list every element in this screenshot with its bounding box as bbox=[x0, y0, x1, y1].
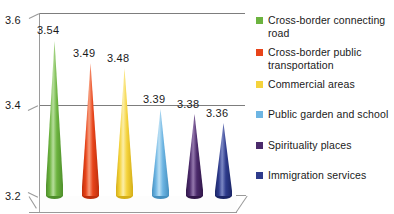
cone-value-label: 3.48 bbox=[107, 52, 129, 64]
cone-body bbox=[215, 123, 232, 196]
cone-body bbox=[46, 40, 63, 196]
chart-legend: Cross-border connecting road Cross-borde… bbox=[252, 0, 394, 214]
chart-floor-right-edge bbox=[236, 196, 250, 213]
legend-swatch-icon bbox=[256, 142, 263, 149]
cone-value-label: 3.36 bbox=[206, 107, 228, 119]
cone-bar[interactable] bbox=[82, 63, 99, 196]
legend-swatch-icon bbox=[256, 17, 263, 24]
legend-item-commercial-areas[interactable]: Commercial areas bbox=[256, 78, 394, 91]
legend-item-public-garden-and-school[interactable]: Public garden and school bbox=[256, 108, 394, 121]
y-axis-tick-3-6: 3.6 bbox=[5, 14, 21, 26]
cone-body bbox=[186, 114, 203, 196]
chart-floor-left-edge bbox=[29, 196, 40, 213]
cone-bar[interactable] bbox=[215, 123, 232, 196]
cone-bar[interactable] bbox=[152, 109, 169, 196]
cone-value-label: 3.54 bbox=[37, 24, 59, 36]
legend-item-label: Immigration services bbox=[268, 169, 366, 182]
plot-area: 3.6 3.4 3.2 3.543.493.483.393.383.36 bbox=[0, 0, 250, 214]
axis-tick-skew-middle bbox=[28, 105, 38, 111]
legend-swatch-icon bbox=[256, 172, 263, 179]
cone-value-label: 3.49 bbox=[73, 47, 95, 59]
chart-floor bbox=[39, 196, 237, 213]
cone-value-label: 3.38 bbox=[177, 98, 199, 110]
legend-item-spirituality-places[interactable]: Spirituality places bbox=[256, 139, 394, 152]
gridline-top bbox=[40, 13, 245, 14]
legend-item-cross-border-public-transportation[interactable]: Cross-border public transportation bbox=[256, 46, 394, 71]
cone-body bbox=[82, 63, 99, 196]
legend-item-immigration-services[interactable]: Immigration services bbox=[256, 169, 394, 182]
legend-item-label: Commercial areas bbox=[268, 78, 355, 91]
cone-bar[interactable] bbox=[46, 40, 63, 196]
legend-item-label: Cross-border public transportation bbox=[268, 46, 394, 71]
cone-body bbox=[116, 68, 133, 196]
y-axis-tick-3-4: 3.4 bbox=[5, 99, 21, 111]
cone-bar[interactable] bbox=[116, 68, 133, 196]
legend-item-label: Cross-border connecting road bbox=[268, 14, 394, 39]
legend-swatch-icon bbox=[256, 111, 263, 118]
cone-body bbox=[152, 109, 169, 196]
cone-bar[interactable] bbox=[186, 114, 203, 196]
y-axis-line bbox=[39, 13, 40, 197]
legend-item-cross-border-connecting-road[interactable]: Cross-border connecting road bbox=[256, 14, 394, 39]
cone-value-label: 3.39 bbox=[143, 93, 165, 105]
legend-item-label: Spirituality places bbox=[268, 139, 352, 152]
legend-swatch-icon bbox=[256, 49, 263, 56]
legend-item-label: Public garden and school bbox=[268, 108, 388, 121]
y-axis-tick-3-2: 3.2 bbox=[5, 190, 21, 202]
chart-floor-front-edge bbox=[29, 212, 237, 213]
cone-chart: 3.6 3.4 3.2 3.543.493.483.393.383.36 Cro… bbox=[0, 0, 394, 214]
legend-swatch-icon bbox=[256, 81, 263, 88]
axis-tick-skew-top bbox=[29, 13, 39, 19]
